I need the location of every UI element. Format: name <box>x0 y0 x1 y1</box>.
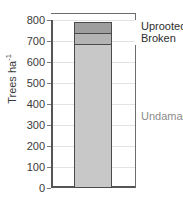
y-axis-tick-label: 0 <box>39 182 45 194</box>
y-axis-tick-label: 800 <box>27 14 45 26</box>
y-axis-tick-label: 700 <box>27 35 45 47</box>
bracket-undamaged <box>135 45 136 188</box>
plot-area: 0100200300400500600700800 <box>51 20 135 188</box>
annotation-label-uprooted: Uprooted <box>141 20 183 32</box>
y-axis-tick-label: 100 <box>27 161 45 173</box>
bracket-top-rule <box>51 13 136 14</box>
y-axis-title-exponent: -1 <box>4 54 13 61</box>
stacked-bar[interactable] <box>74 22 112 186</box>
bracket-top-stem <box>135 13 136 20</box>
y-axis-tick-label: 400 <box>27 98 45 110</box>
gridline <box>53 20 135 21</box>
y-axis-title-text: Trees ha <box>6 61 18 104</box>
y-axis-tick <box>47 188 51 189</box>
y-axis-tick-label: 300 <box>27 119 45 131</box>
annotation-label-broken: Broken <box>141 32 176 44</box>
y-axis-line <box>51 20 53 188</box>
y-axis-title: Trees ha-1 <box>5 34 19 124</box>
y-axis-tick-label: 600 <box>27 56 45 68</box>
chart-figure: Trees ha-1 0100200300400500600700800 Upr… <box>0 0 183 199</box>
y-axis-tick-label: 500 <box>27 77 45 89</box>
y-axis-tick-label: 200 <box>27 140 45 152</box>
bar-segment-undamaged[interactable] <box>74 44 112 187</box>
annotation-label-undamaged: Undamaged <box>141 110 183 122</box>
